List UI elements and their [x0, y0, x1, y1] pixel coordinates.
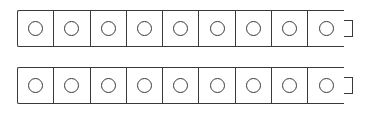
block-cell — [162, 10, 198, 47]
circle-icon — [101, 21, 116, 36]
circle-icon — [28, 78, 43, 93]
circle-icon — [246, 21, 261, 36]
block-cell — [126, 67, 162, 104]
circle-icon — [64, 78, 79, 93]
block-cell — [307, 67, 343, 104]
circle-icon — [101, 78, 116, 93]
block-cell — [53, 10, 89, 47]
connector-tab — [344, 20, 353, 37]
circle-icon — [173, 21, 188, 36]
block-strip-1 — [17, 10, 353, 47]
circle-icon — [246, 78, 261, 93]
circle-icon — [319, 78, 334, 93]
block-cell — [307, 10, 343, 47]
circle-icon — [173, 78, 188, 93]
circle-icon — [210, 78, 225, 93]
block-cell — [198, 67, 234, 104]
block-cell — [271, 67, 307, 104]
circle-icon — [28, 21, 43, 36]
circle-icon — [282, 78, 297, 93]
block-cell — [17, 10, 53, 47]
block-cell — [198, 10, 234, 47]
block-cell — [53, 67, 89, 104]
block-cell — [17, 67, 53, 104]
block-cell — [235, 10, 271, 47]
circle-icon — [137, 78, 152, 93]
block-cell — [126, 10, 162, 47]
circle-icon — [64, 21, 79, 36]
block-cell — [90, 10, 126, 47]
block-cell — [271, 10, 307, 47]
connector-tab — [344, 77, 353, 94]
circle-icon — [137, 21, 152, 36]
block-strip-2 — [17, 67, 353, 104]
block-cell — [235, 67, 271, 104]
block-cell — [90, 67, 126, 104]
circle-icon — [210, 21, 225, 36]
circle-icon — [319, 21, 334, 36]
block-cell — [162, 67, 198, 104]
circle-icon — [282, 21, 297, 36]
